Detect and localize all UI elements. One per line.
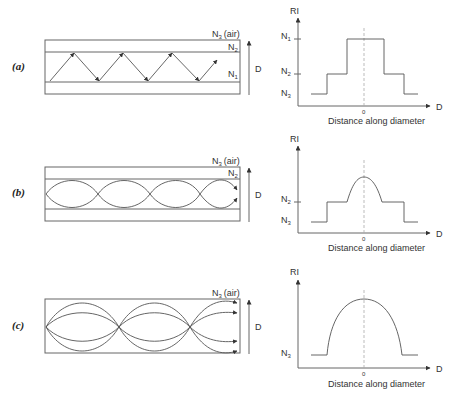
label-n3-air-c: N3(air) xyxy=(212,288,240,299)
label-n3-air-b: N3(air) xyxy=(212,156,240,167)
x-caption-b: Distance along diameter xyxy=(328,243,425,253)
x-axis-label-a: D xyxy=(436,102,443,112)
label-d-a: D xyxy=(255,64,262,74)
label-n2-a: N2 xyxy=(228,42,239,53)
tick-n1-a: N1 xyxy=(281,31,292,42)
panel-c: (c) N3(air) D RI D N3 0 Distance along d… xyxy=(12,267,443,389)
label-d-b: D xyxy=(255,190,262,200)
graded-profile-b xyxy=(311,177,418,222)
y-axis-label-a: RI xyxy=(290,6,299,16)
origin-a: 0 xyxy=(362,109,366,115)
ray-path-a xyxy=(50,53,217,81)
profile-c: RI D N3 0 Distance along diameter xyxy=(281,267,443,389)
fiber-diagram: (a) N3(air) N2 N1 D RI D xyxy=(0,0,452,398)
origin-b: 0 xyxy=(362,236,366,242)
panel-label-c: (c) xyxy=(12,319,24,332)
x-axis-label-b: D xyxy=(436,229,443,239)
tick-n2-b: N2 xyxy=(281,194,292,205)
origin-c: 0 xyxy=(362,371,366,377)
fiber-b: N3(air) N2 xyxy=(45,156,240,221)
ray-path-b xyxy=(46,180,237,208)
profile-b: RI D N2 N3 0 Distance along diameter xyxy=(281,134,443,253)
fiber-c: N3(air) xyxy=(45,288,240,353)
y-axis-label-c: RI xyxy=(290,267,299,277)
x-caption-c: Distance along diameter xyxy=(328,379,425,389)
tick-n3-a: N3 xyxy=(281,88,292,99)
y-axis-label-b: RI xyxy=(290,134,299,144)
x-caption-a: Distance along diameter xyxy=(328,116,425,126)
panel-label-b: (b) xyxy=(12,186,25,199)
panel-b: (b) N3(air) N2 D RI D N2 N3 0 Distance xyxy=(12,134,443,253)
label-n2-b: N2 xyxy=(228,168,239,179)
parabolic-profile-c xyxy=(311,299,418,355)
tick-n3-b: N3 xyxy=(281,215,292,226)
tick-n2-a: N2 xyxy=(281,66,292,77)
x-axis-label-c: D xyxy=(436,364,443,374)
label-n3-air-a: N3(air) xyxy=(212,29,240,40)
fiber-a: N3(air) N2 N1 xyxy=(45,29,240,94)
tick-n3-c: N3 xyxy=(281,348,292,359)
panel-label-a: (a) xyxy=(12,60,25,73)
ray-paths-c xyxy=(46,301,237,353)
panel-a: (a) N3(air) N2 N1 D RI D xyxy=(12,6,443,126)
label-d-c: D xyxy=(255,322,262,332)
label-n1-a: N1 xyxy=(228,69,239,80)
profile-a: RI D N1 N2 N3 0 Distance along diameter xyxy=(281,6,443,126)
step-profile-a xyxy=(311,39,418,94)
